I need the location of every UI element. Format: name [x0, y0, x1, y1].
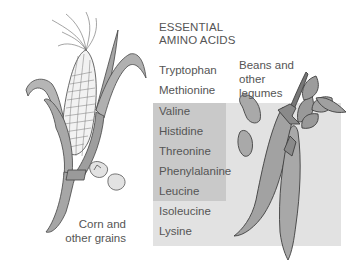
amino-acid-item: Isoleucine	[159, 205, 211, 217]
legumes-label-line-1: Beans and	[239, 58, 294, 72]
amino-acid-item: Histidine	[159, 125, 203, 137]
chart-title: ESSENTIAL AMINO ACIDS	[159, 21, 236, 47]
amino-acid-item: Valine	[159, 105, 190, 117]
legumes-label-line-3: legumes	[239, 86, 294, 100]
title-line-1: ESSENTIAL	[159, 21, 236, 34]
amino-acid-item: Threonine	[159, 145, 211, 157]
amino-acid-item: Leucine	[159, 185, 199, 197]
grains-label-line-1: Corn and	[60, 218, 126, 232]
title-line-2: AMINO ACIDS	[159, 34, 236, 47]
amino-acid-item: Lysine	[159, 225, 192, 237]
beans-icon	[238, 95, 261, 157]
corn-kernels-icon	[90, 161, 125, 190]
legumes-label-line-2: other	[239, 72, 294, 86]
legumes-label: Beans and other legumes	[239, 58, 294, 100]
corn-illustration-icon	[26, 12, 146, 232]
grains-label-line-2: other grains	[60, 232, 126, 246]
amino-acid-item: Phenylalanine	[159, 165, 231, 177]
amino-acid-item: Tryptophan	[159, 64, 217, 76]
amino-acid-item: Methionine	[159, 84, 215, 96]
grains-label: Corn and other grains	[60, 218, 126, 245]
